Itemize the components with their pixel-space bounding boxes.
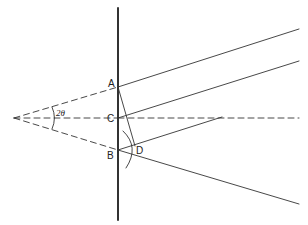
arc-near-D <box>123 131 132 168</box>
ray-from-C <box>118 61 299 118</box>
line-A-to-D <box>118 87 135 146</box>
label-D: D <box>136 145 143 156</box>
angle-arc <box>52 107 55 129</box>
ray-from-A <box>118 29 299 87</box>
label-A: A <box>108 78 115 89</box>
label-C: C <box>107 113 114 124</box>
dashed-apex-to-A <box>14 87 118 118</box>
dashed-apex-to-B <box>14 118 118 150</box>
label-angle: 2θ <box>56 108 66 118</box>
diagram-canvas: A C B D 2θ <box>0 0 308 225</box>
ray-from-B-up <box>118 117 222 150</box>
label-B: B <box>107 150 114 161</box>
ray-from-B-down <box>118 150 299 204</box>
